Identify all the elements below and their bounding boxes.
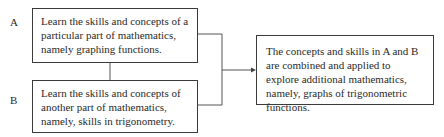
node-a-box: Learn the skills and concepts of a parti… bbox=[32, 8, 198, 63]
node-a-label: A bbox=[10, 15, 18, 29]
node-b-box: Learn the skills and concepts of another… bbox=[32, 80, 198, 133]
node-b-label: B bbox=[10, 93, 17, 107]
node-c-text: The concepts and skills in A and B are c… bbox=[266, 45, 418, 113]
node-c-box: The concepts and skills in A and B are c… bbox=[256, 35, 434, 105]
node-b-text: Learn the skills and concepts of another… bbox=[41, 87, 181, 127]
node-a-text: Learn the skills and concepts of a parti… bbox=[41, 15, 188, 55]
